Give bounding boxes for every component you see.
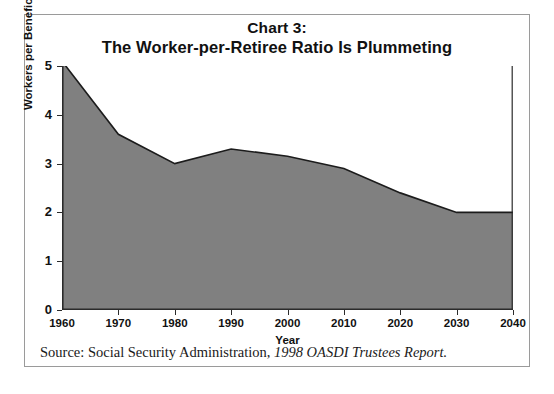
x-tick-mark bbox=[513, 310, 514, 315]
x-tick-mark bbox=[118, 310, 119, 315]
x-tick-mark bbox=[400, 310, 401, 315]
y-tick-label-0: 0 bbox=[30, 303, 52, 316]
x-tick-mark bbox=[457, 310, 458, 315]
x-tick-mark bbox=[344, 310, 345, 315]
y-tick-label-3: 3 bbox=[30, 157, 52, 170]
x-tick-label-2030: 2030 bbox=[429, 317, 485, 330]
x-tick-label-2040: 2040 bbox=[485, 317, 541, 330]
y-tick-mark bbox=[57, 310, 62, 311]
x-tick-mark bbox=[175, 310, 176, 315]
x-tick-label-1990: 1990 bbox=[203, 317, 259, 330]
chart-figure: Chart 3: The Worker-per-Retiree Ratio Is… bbox=[0, 0, 554, 394]
source-note: Source: Social Security Administration, … bbox=[40, 344, 520, 361]
y-tick-label-1: 1 bbox=[30, 254, 52, 267]
area-chart-svg bbox=[62, 66, 513, 310]
x-tick-label-1970: 1970 bbox=[90, 317, 146, 330]
chart-subtitle: The Worker-per-Retiree Ratio Is Plummeti… bbox=[24, 37, 530, 58]
x-tick-mark bbox=[288, 310, 289, 315]
source-report-title: 1998 OASDI Trustees Report. bbox=[274, 344, 447, 360]
plot-area bbox=[62, 66, 513, 310]
x-tick-label-2010: 2010 bbox=[316, 317, 372, 330]
source-prefix: Source: Social Security Administration, bbox=[40, 344, 274, 360]
x-tick-label-2000: 2000 bbox=[260, 317, 316, 330]
chart-title-block: Chart 3: The Worker-per-Retiree Ratio Is… bbox=[24, 18, 530, 58]
y-tick-label-4: 4 bbox=[30, 108, 52, 121]
area-series-fill bbox=[62, 66, 513, 310]
chart-title: Chart 3: bbox=[24, 18, 530, 37]
x-tick-label-2020: 2020 bbox=[372, 317, 428, 330]
x-tick-mark bbox=[231, 310, 232, 315]
y-tick-label-5: 5 bbox=[30, 59, 52, 72]
x-tick-label-1980: 1980 bbox=[147, 317, 203, 330]
y-tick-label-2: 2 bbox=[30, 205, 52, 218]
x-tick-label-1960: 1960 bbox=[34, 317, 90, 330]
